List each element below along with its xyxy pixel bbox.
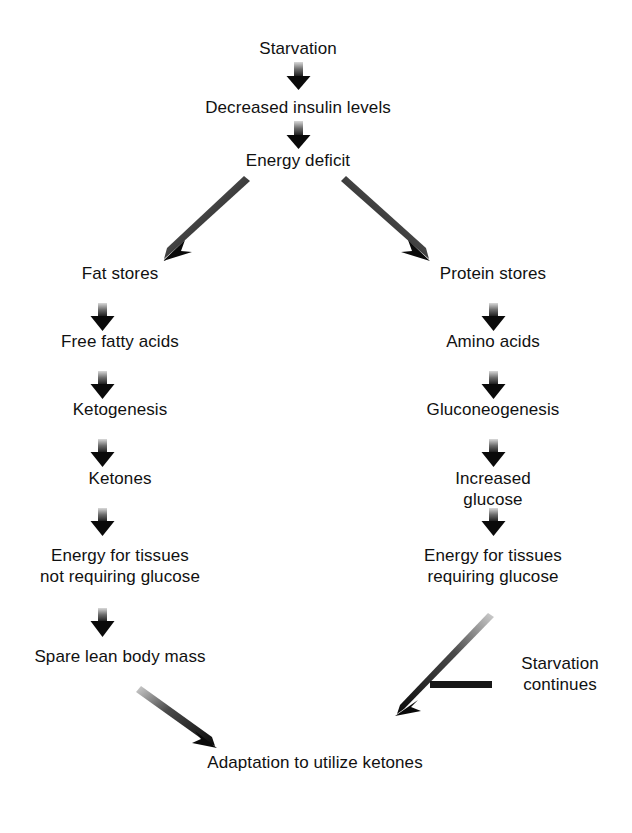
- node-decreased-insulin-levels: Decreased insulin levels: [205, 97, 391, 118]
- arrow-ketogenesis-to-ketones: [91, 439, 115, 467]
- node-gluconeogenesis: Gluconeogenesis: [427, 399, 560, 420]
- arrow-energy-deficit-to-protein-stores: [341, 176, 430, 261]
- arrow-glucose-to-energy-glucose: [482, 508, 506, 536]
- node-adaptation-to-utilize-ketones: Adaptation to utilize ketones: [207, 752, 423, 773]
- arrow-spare-mass-to-adaptation: [136, 686, 217, 748]
- node-ketones: Ketones: [88, 468, 151, 489]
- arrow-ketones-to-energy-no-glucose: [91, 508, 115, 536]
- arrow-energy-glucose-to-adaptation: [395, 613, 494, 716]
- arrow-ffa-to-ketogenesis: [91, 371, 115, 399]
- node-energy-deficit: Energy deficit: [246, 150, 350, 171]
- arrow-fat-to-free-fatty-acids: [91, 303, 115, 331]
- node-starvation: Starvation: [259, 38, 337, 59]
- arrow-protein-to-amino-acids: [482, 303, 506, 331]
- node-energy-for-tissues-not-requiring-glucose: Energy for tissues not requiring glucose: [40, 545, 200, 587]
- node-increased-glucose: Increased glucose: [424, 468, 563, 510]
- arrow-energy-deficit-to-fat-stores: [163, 176, 250, 261]
- node-free-fatty-acids: Free fatty acids: [61, 331, 179, 352]
- node-amino-acids: Amino acids: [446, 331, 540, 352]
- node-energy-for-tissues-requiring-glucose: Energy for tissues requiring glucose: [424, 545, 562, 587]
- arrow-energy-to-spare-lean-mass: [91, 608, 115, 637]
- node-ketogenesis: Ketogenesis: [73, 399, 168, 420]
- node-spare-lean-body-mass: Spare lean body mass: [34, 646, 205, 667]
- arrow-starvation-to-insulin: [287, 62, 311, 90]
- arrow-insulin-to-energy-deficit: [287, 121, 311, 149]
- connector-starvation-continues: [430, 681, 492, 688]
- flowchart-canvas: Starvation Decreased insulin levels Ener…: [0, 0, 632, 833]
- node-fat-stores: Fat stores: [82, 263, 159, 284]
- node-starvation-continues: Starvation continues: [521, 653, 599, 695]
- arrow-amino-to-gluconeogenesis: [482, 371, 506, 399]
- node-protein-stores: Protein stores: [440, 263, 546, 284]
- arrow-gluconeogenesis-to-increased-glucose: [482, 439, 506, 467]
